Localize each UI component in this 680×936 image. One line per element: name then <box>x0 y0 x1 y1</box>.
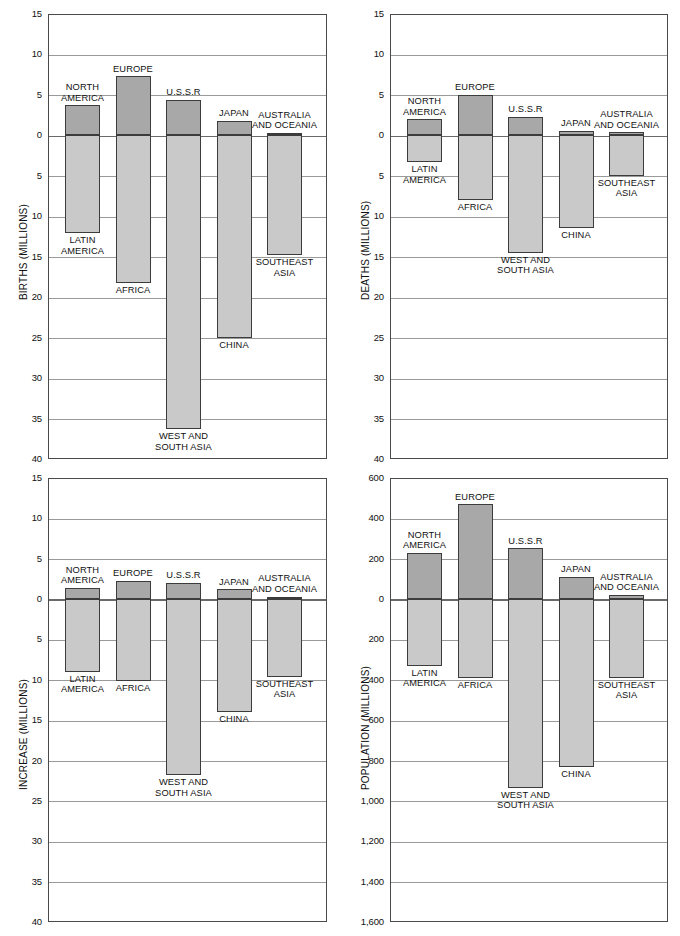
gridline <box>391 842 667 843</box>
gridline <box>391 801 667 802</box>
y-axis-title-population: POPULATION (MILLIONS) <box>360 666 371 790</box>
y-axis-tick-label: 0 <box>346 593 384 604</box>
bar-positive <box>559 577 594 599</box>
y-axis-tick-label: 600 <box>346 472 384 483</box>
bar-positive <box>458 504 493 599</box>
bar-positive <box>407 553 442 599</box>
chart-panel-population: 60040020002004006008001,0001,2001,4001,6… <box>0 0 680 936</box>
gridline <box>391 519 667 520</box>
y-axis-tick-label: 1,400 <box>346 876 384 887</box>
y-axis-tick-label: 1,200 <box>346 835 384 846</box>
bar-negative <box>609 599 644 678</box>
bar-positive <box>508 548 543 599</box>
bar-negative <box>559 599 594 767</box>
bar-negative <box>458 599 493 678</box>
y-axis-tick-label: 1,600 <box>346 916 384 927</box>
gridline <box>391 882 667 883</box>
figure-canvas: 151050510152025303540BIRTHS (MILLIONS)NO… <box>0 0 680 936</box>
bar-negative <box>508 599 543 788</box>
bar-negative <box>407 599 442 666</box>
y-axis-tick-label: 1,000 <box>346 795 384 806</box>
y-axis-tick-label: 400 <box>346 512 384 523</box>
y-axis-tick-label: 200 <box>346 553 384 564</box>
y-axis-tick-label: 200 <box>346 633 384 644</box>
